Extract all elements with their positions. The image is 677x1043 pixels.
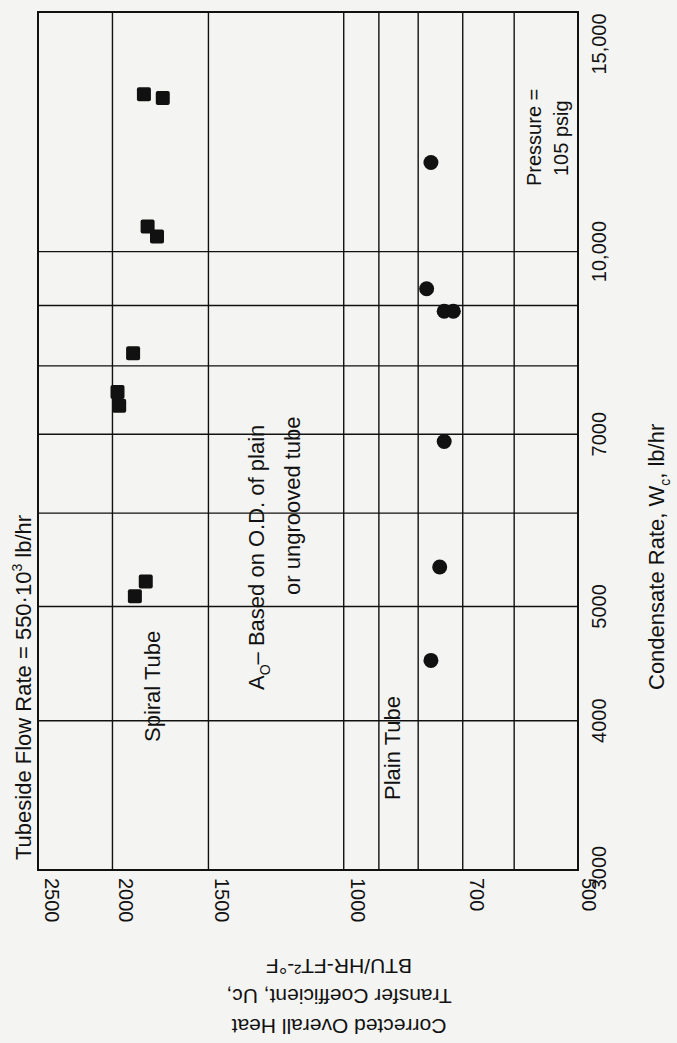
spiral-tube-point (128, 589, 142, 603)
spiral-tube-point (156, 91, 170, 105)
x-tick-label: 10,000 (588, 221, 610, 282)
y-axis-label-line1: Corrected Overall Heat (231, 1015, 446, 1038)
spiral-tube-point (112, 399, 126, 413)
plain-tube-point (432, 560, 447, 575)
pressure-label-line2: 105 psig (550, 100, 572, 176)
plain-tube-point (437, 304, 452, 319)
grid-lines (38, 12, 578, 870)
spiral-tube-point (137, 87, 151, 101)
y-axis-label: Corrected Overall Heat Transfer Coeffici… (226, 955, 451, 1038)
plot-frame (38, 12, 578, 870)
y-tick-label: 1000 (347, 878, 369, 923)
x-tick-label: 4000 (588, 698, 610, 743)
plain-tube-point (423, 653, 438, 668)
plain-tube-point (437, 434, 452, 449)
note-ao-line1: AO– Based on O.D. of plain (244, 425, 273, 690)
plain-tube-label: Plain Tube (380, 696, 405, 800)
spiral-tube-label: Spiral Tube (140, 631, 165, 742)
chart-title: Tubeside Flow Rate = 550·103 lb/hr (9, 515, 36, 860)
spiral-tube-point (141, 220, 155, 234)
y-tick-label: 2500 (41, 878, 63, 923)
x-tick-label: 15,000 (588, 13, 610, 74)
plain-tube-point (423, 155, 438, 170)
spiral-tube-point (139, 574, 153, 588)
pressure-label-line1: Pressure = (523, 89, 545, 186)
y-axis-label-line2: Transfer Coefficient, Uc, (226, 985, 451, 1008)
plain-tube-point (419, 281, 434, 296)
heat-transfer-chart: 2500200015001000700500 30004000500070001… (0, 0, 677, 1043)
x-tick-label: 7000 (588, 412, 610, 457)
x-axis-label: Condensate Rate, Wc, lb/hr (644, 424, 673, 690)
spiral-tube-point (126, 346, 140, 360)
x-tick-label: 5000 (588, 584, 610, 629)
x-axis-ticks: 300040005000700010,00015,000 (588, 13, 610, 890)
spiral-tube-point (110, 385, 124, 399)
y-axis-label-line3: BTU/HR-FT²-°F (266, 955, 412, 978)
y-axis-ticks: 2500200015001000700500 (41, 878, 600, 923)
x-tick-label: 3000 (588, 846, 610, 891)
y-tick-label: 1500 (211, 878, 233, 923)
note-ao-line2: or ungrooved tube (280, 416, 305, 595)
y-tick-label: 700 (466, 878, 488, 911)
y-tick-label: 2000 (115, 878, 137, 923)
